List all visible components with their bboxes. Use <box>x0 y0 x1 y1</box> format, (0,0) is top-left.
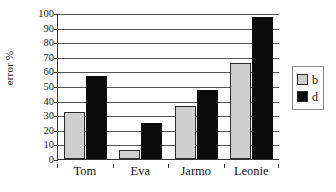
x-tick-mark <box>224 164 225 168</box>
x-axis-tick-labels: TomEvaJarmoLeonie <box>57 164 279 179</box>
x-tick-label: Tom <box>57 164 113 179</box>
y-tick-label: 40 <box>44 96 55 107</box>
y-tick-label: 70 <box>44 53 55 64</box>
legend: bd <box>292 66 324 110</box>
bar-leonie-d[interactable] <box>252 17 273 159</box>
plot-area <box>57 14 279 160</box>
legend-item-b[interactable]: b <box>297 71 318 88</box>
legend-label: d <box>312 91 318 103</box>
legend-label: b <box>312 74 318 86</box>
bar-groups <box>58 14 279 159</box>
y-tick-label: 90 <box>44 23 55 34</box>
bar-eva-d[interactable] <box>141 123 162 160</box>
bar-eva-b[interactable] <box>119 150 140 159</box>
x-tick-mark <box>278 164 279 168</box>
legend-swatch-icon <box>297 74 308 85</box>
x-tick-mark <box>57 164 58 168</box>
bar-group <box>169 14 224 159</box>
y-tick-label: 60 <box>44 67 55 78</box>
y-axis-title: error % <box>3 33 15 103</box>
y-axis-tick-labels: 0102030405060708090100 <box>28 8 54 160</box>
bar-leonie-b[interactable] <box>230 63 251 159</box>
y-tick-label: 100 <box>38 9 54 20</box>
x-tick-label: Eva <box>113 164 169 179</box>
bar-jarmo-b[interactable] <box>175 106 196 159</box>
legend-item-d[interactable]: d <box>297 88 318 105</box>
y-tick-label: 30 <box>44 111 55 122</box>
bar-group <box>224 14 279 159</box>
x-tick-mark <box>113 164 114 168</box>
x-tick-label: Leonie <box>224 164 280 179</box>
x-tick-mark <box>168 164 169 168</box>
y-tick-label: 80 <box>44 38 55 49</box>
legend-swatch-icon <box>297 91 308 102</box>
bar-tom-b[interactable] <box>64 112 85 159</box>
bar-jarmo-d[interactable] <box>197 90 218 159</box>
y-tick-mark <box>54 160 58 161</box>
bar-group <box>58 14 113 159</box>
y-tick-label: 10 <box>44 140 55 151</box>
y-tick-label: 50 <box>44 82 55 93</box>
bar-tom-d[interactable] <box>86 76 107 159</box>
x-tick-label: Jarmo <box>168 164 224 179</box>
bar-chart: error % 0102030405060708090100 TomEvaJar… <box>0 0 336 192</box>
bar-group <box>113 14 168 159</box>
y-tick-label: 20 <box>44 126 55 137</box>
